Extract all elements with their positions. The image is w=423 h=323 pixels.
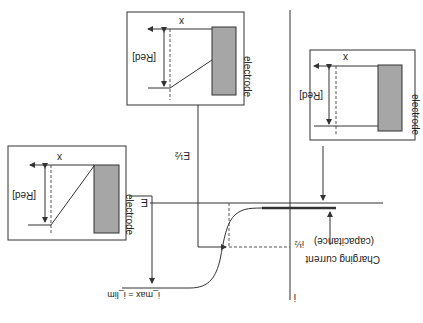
svg-text:x: x [57,152,62,163]
i-axis-label: i [294,292,296,303]
inset-top: electrode x [Red] [127,12,253,105]
voltammogram-diagram: E i i½ E½ i_max = i_lim Charging current… [0,0,423,323]
limiting-current-label: i_max = i_lim [107,290,160,300]
svg-text:x: x [343,52,348,63]
charging-label-2: (capacitance) [314,236,374,247]
svg-text:x: x [179,16,184,27]
e-half-label: E½ [174,150,190,161]
svg-text:electrode: electrode [410,94,421,136]
i-half-label: i½ [294,239,304,249]
svg-text:[Red]: [Red] [12,190,36,201]
inset-right: electrode x [Red] [299,50,421,140]
svg-text:electrode: electrode [124,194,135,236]
e-axis-label: E [141,197,148,209]
connector-top [198,100,226,247]
charging-label-1: Charging current [305,254,380,265]
svg-text:[Red]: [Red] [299,90,323,101]
electrode-label: electrode [242,56,253,98]
diagram-svg: E i i½ E½ i_max = i_lim Charging current… [0,0,423,323]
inset-left: electrode x [Red] [8,146,135,240]
svg-text:[Red]: [Red] [132,52,156,63]
